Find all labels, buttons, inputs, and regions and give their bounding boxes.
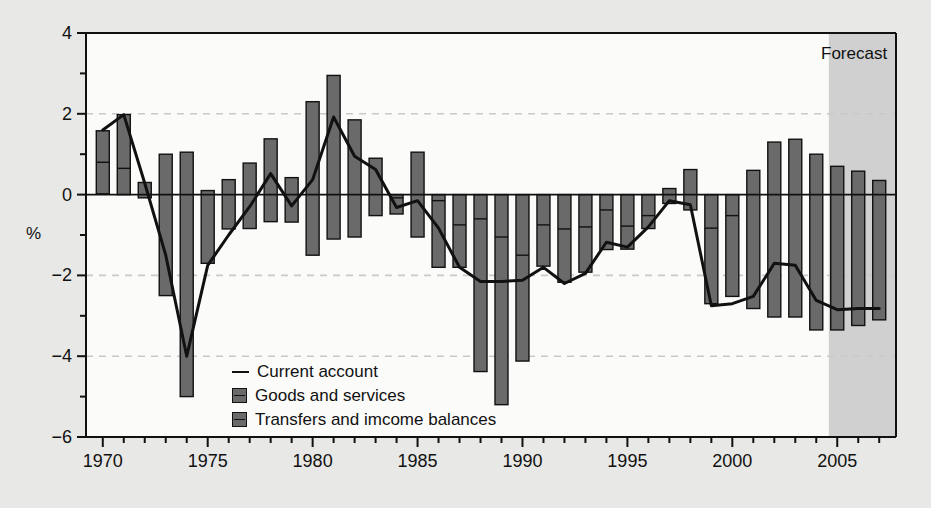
bar-group (348, 120, 361, 237)
bar-group (495, 195, 508, 405)
bar-stack (222, 180, 235, 229)
bar-group (579, 195, 592, 273)
bar-stack (495, 195, 508, 405)
bar-group (537, 195, 550, 267)
forecast-label: Forecast (821, 44, 887, 64)
y-axis-tick-label: 4 (28, 23, 72, 44)
bar-group (201, 191, 214, 264)
bar-stack (558, 195, 571, 283)
x-axis-tick-label: 1980 (283, 451, 343, 472)
legend-box-swatch-icon (232, 388, 247, 403)
legend-item-label: Transfers and imcome balances (255, 411, 496, 428)
y-axis-tick-label: 0 (28, 184, 72, 205)
bar-group (327, 75, 340, 239)
chart-figure: 420−2−4−6%197019751980198519901995200020… (0, 0, 931, 508)
bar-group (726, 195, 739, 297)
legend-item: Goods and services (232, 383, 496, 407)
bar-group (180, 152, 193, 396)
x-axis-tick-label: 1975 (178, 451, 238, 472)
y-axis-tick-label: −6 (28, 427, 72, 448)
bar-stack (348, 120, 361, 237)
bar-stack (243, 163, 256, 228)
bar-group (558, 195, 571, 283)
bar-stack (579, 195, 592, 273)
bar-group (873, 180, 886, 319)
legend-line-swatch-icon (232, 364, 249, 379)
bar-stack (537, 195, 550, 267)
y-axis-tick-label: −2 (28, 265, 72, 286)
bar-stack (327, 75, 340, 239)
x-axis-tick-label: 1985 (388, 451, 448, 472)
legend-item: Transfers and imcome balances (232, 407, 496, 431)
bar-group (96, 131, 109, 194)
bar-group (474, 195, 487, 372)
bar-group (789, 139, 802, 317)
legend-item-label: Goods and services (255, 387, 405, 404)
bar-stack (474, 195, 487, 372)
bar-group (768, 142, 781, 317)
x-axis-tick-label: 1970 (73, 451, 133, 472)
chart-svg (0, 0, 931, 508)
x-axis-tick-label: 2000 (702, 451, 762, 472)
bar-stack (180, 152, 193, 396)
bar-group (243, 163, 256, 228)
y-axis-tick-label: 2 (28, 103, 72, 124)
y-axis-tick-label: −4 (28, 346, 72, 367)
bar-stack (726, 195, 739, 297)
legend-item: Current account (232, 359, 496, 383)
bar-stack (201, 191, 214, 264)
chart-legend: Current accountGoods and servicesTransfe… (232, 359, 496, 431)
bar-stack (873, 180, 886, 319)
bar-group (831, 166, 844, 330)
bar-group (222, 180, 235, 229)
bar-stack (831, 166, 844, 330)
x-axis-tick-label: 1995 (597, 451, 657, 472)
bar-stack (789, 139, 802, 317)
legend-item-label: Current account (257, 363, 378, 380)
bar-stack (768, 142, 781, 317)
legend-box-swatch-icon (232, 412, 247, 427)
x-axis-tick-label: 1990 (492, 451, 552, 472)
y-axis-title: % (26, 224, 41, 244)
x-axis-tick-label: 2005 (807, 451, 867, 472)
